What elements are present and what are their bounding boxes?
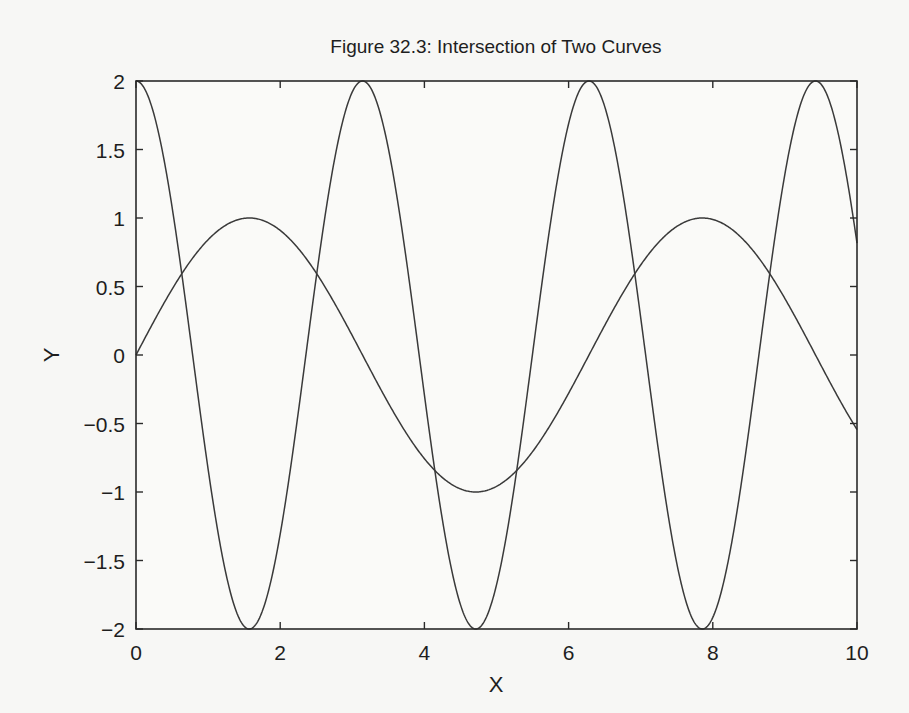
- x-tick-label: 2: [274, 641, 286, 664]
- chart: Figure 32.3: Intersection of Two Curves …: [0, 0, 909, 713]
- y-tick-label: −2: [101, 618, 125, 641]
- plot-area: [136, 81, 857, 629]
- x-tick-label: 0: [130, 641, 142, 664]
- x-tick-label: 6: [563, 641, 575, 664]
- plot-background: [136, 81, 857, 629]
- y-tick-label: 0: [113, 344, 125, 367]
- y-tick-label: 1: [113, 207, 125, 230]
- y-axis-label: Y: [39, 347, 64, 362]
- x-tick-labels: 0246810: [130, 641, 869, 664]
- y-tick-label: 1.5: [96, 139, 125, 162]
- y-tick-label: −0.5: [84, 413, 125, 436]
- x-tick-label: 10: [845, 641, 868, 664]
- x-tick-label: 4: [419, 641, 431, 664]
- x-axis-label: X: [489, 672, 504, 697]
- y-tick-label: 2: [113, 70, 125, 93]
- chart-title: Figure 32.3: Intersection of Two Curves: [330, 36, 661, 57]
- y-tick-labels: 21.510.50−0.5−1−1.5−2: [84, 70, 125, 641]
- y-tick-label: −1: [101, 481, 125, 504]
- x-tick-label: 8: [707, 641, 719, 664]
- y-tick-label: 0.5: [96, 276, 125, 299]
- y-tick-label: −1.5: [84, 550, 125, 573]
